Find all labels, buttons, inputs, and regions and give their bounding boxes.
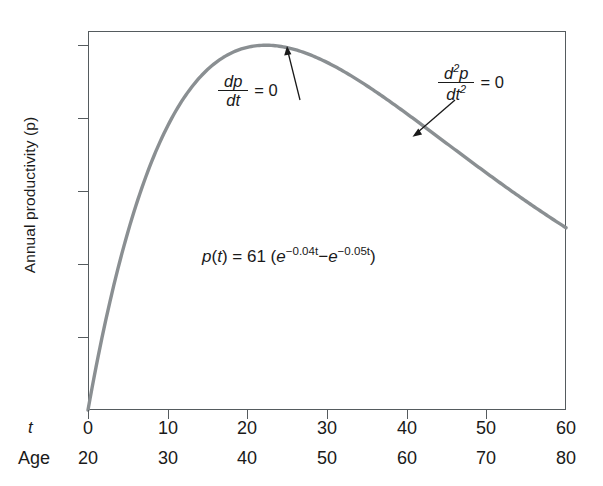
second-derivative-numerator: d2p (438, 62, 474, 82)
first-derivative-arrow (284, 46, 300, 100)
equation-exponent-1: −0.04t (286, 245, 318, 257)
equation-exponent-2: −0.05t (338, 245, 370, 257)
second-derivative-fraction: d2p dt2 (438, 62, 474, 103)
equation-e1: e (276, 247, 285, 266)
x-tick-label-t-60: 60 (536, 416, 596, 440)
x-tick-label-t-0: 0 (58, 416, 118, 440)
x-axis-age-labels: 20 30 40 50 60 70 80 (0, 446, 603, 470)
equation-e2: e (328, 247, 337, 266)
curve-layer (0, 0, 603, 486)
second-derivative-arrow (413, 100, 456, 137)
x-tick-label-age-40: 40 (217, 446, 277, 470)
second-derivative-annotation: d2p dt2 = 0 (438, 62, 504, 103)
equation-coefficient: 61 (247, 247, 266, 266)
second-derivative-den-dt: dt (446, 84, 460, 102)
second-derivative-equals: = 0 (474, 73, 503, 92)
equation-close-paren: ) (222, 247, 228, 266)
chart-figure: Annual productivity (p) 5 4 3 2 1 0 dp d… (0, 0, 603, 486)
equation-group-close: ) (370, 247, 376, 266)
x-tick-label-age-20: 20 (58, 446, 118, 470)
second-derivative-denominator: dt2 (438, 82, 474, 103)
second-derivative-den-exponent: 2 (460, 83, 466, 95)
x-axis-t-labels: 0 10 20 30 40 50 60 (0, 416, 603, 440)
x-tick-label-age-70: 70 (456, 446, 516, 470)
equation-equals: = (232, 247, 242, 266)
first-derivative-annotation: dp dt = 0 (218, 72, 278, 110)
x-tick-label-t-30: 30 (297, 416, 357, 440)
first-derivative-equals: = 0 (248, 81, 277, 100)
second-derivative-num-p: p (459, 64, 468, 82)
first-derivative-fraction: dp dt (218, 72, 248, 110)
x-tick-label-t-50: 50 (456, 416, 516, 440)
first-derivative-numerator: dp (218, 72, 248, 90)
equation-minus: − (318, 247, 328, 266)
x-tick-label-t-20: 20 (217, 416, 277, 440)
x-tick-label-age-30: 30 (138, 446, 198, 470)
first-derivative-denominator: dt (218, 90, 248, 109)
equation-label: p(t) = 61 (e−0.04t−e−0.05t) (202, 245, 376, 267)
x-tick-label-age-50: 50 (297, 446, 357, 470)
x-tick-label-age-80: 80 (536, 446, 596, 470)
x-tick-label-age-60: 60 (377, 446, 437, 470)
x-tick-label-t-40: 40 (377, 416, 437, 440)
x-tick-label-t-10: 10 (138, 416, 198, 440)
second-derivative-num-d: d (444, 64, 453, 82)
